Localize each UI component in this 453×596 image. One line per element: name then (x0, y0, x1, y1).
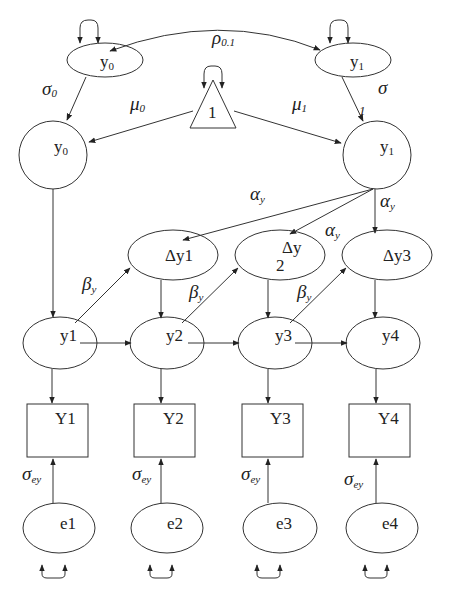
svg-text:e4: e4 (382, 514, 399, 533)
sigma-ey-label-1: σey (22, 463, 41, 485)
y4-node: y4 (346, 317, 420, 369)
sigma0-label: σ0 (42, 78, 57, 99)
svg-text:y4: y4 (382, 326, 400, 345)
e3-node: e3 (243, 503, 317, 553)
svg-text:e3: e3 (276, 514, 292, 533)
one-label: 1 (359, 103, 366, 118)
mu0-label: μ0 (129, 93, 146, 114)
e3-self-loop (257, 565, 280, 578)
top-y1-node: y1 (315, 43, 391, 77)
svg-text:Δy: Δy (282, 238, 302, 257)
latent-y0-circle: y0 (19, 121, 87, 189)
edge-top-y0-to-circle (67, 77, 86, 120)
svg-text:y0: y0 (54, 137, 69, 157)
mu1-label: μ1 (291, 93, 307, 114)
beta-label-2: βy (188, 281, 203, 303)
sigma-ey-label-4: σey (344, 468, 363, 490)
e2-node: e2 (131, 503, 203, 553)
svg-text:Y4: Y4 (378, 409, 399, 428)
svg-text:1: 1 (208, 103, 217, 122)
delta-y2-node: Δy 2 (235, 230, 325, 280)
alpha-label-3: αy (380, 190, 395, 212)
sigma-label: σ (378, 77, 388, 98)
svg-text:2: 2 (276, 256, 285, 275)
svg-text:Y2: Y2 (163, 409, 184, 428)
alpha-label-1: αy (250, 183, 265, 205)
svg-text:Y3: Y3 (270, 409, 291, 428)
edge-constant-to-y1 (234, 111, 341, 143)
svg-text:y1: y1 (380, 137, 394, 157)
sigma-ey-label-3: σey (241, 463, 260, 485)
constant-triangle: 1 (190, 80, 236, 128)
delta-y1-node: Δy1 (128, 230, 218, 280)
svg-text:y0: y0 (100, 52, 115, 72)
top-y1-self-loop (330, 20, 348, 43)
Y1-box: Y1 (27, 404, 88, 457)
svg-text:e2: e2 (167, 514, 183, 533)
beta-label-1: βy (81, 273, 96, 295)
constant-self-loop (204, 66, 222, 88)
e2-self-loop (150, 565, 172, 578)
svg-text:Y1: Y1 (55, 409, 76, 428)
edge-alpha-dy1 (183, 189, 373, 240)
svg-text:Δy1: Δy1 (165, 246, 193, 265)
svg-text:y1: y1 (350, 52, 364, 72)
latent-y1-circle: y1 (343, 121, 411, 189)
beta-label-3: βy (296, 281, 311, 303)
e4-self-loop (365, 565, 387, 578)
e1-self-loop (42, 565, 65, 578)
top-y0-node: y0 (67, 43, 143, 77)
e1-node: e1 (23, 503, 95, 553)
Y2-box: Y2 (134, 404, 195, 457)
svg-text:y1: y1 (60, 326, 77, 345)
Y3-box: Y3 (242, 404, 303, 457)
delta-y3-node: Δy3 (342, 230, 432, 280)
e4-node: e4 (346, 503, 418, 553)
edge-constant-to-y0 (89, 111, 193, 142)
sigma-ey-label-2: σey (132, 463, 151, 485)
Y4-box: Y4 (349, 404, 410, 457)
alpha-label-2: αy (325, 219, 340, 241)
sem-diagram: y0 y1 ρ0.1 1 y0 y1 σ0 σ 1 μ0 μ1 αy αy αy (0, 0, 453, 596)
svg-text:e1: e1 (60, 514, 76, 533)
svg-text:y3: y3 (275, 326, 292, 345)
svg-text:y2: y2 (166, 326, 183, 345)
top-y0-self-loop (80, 20, 98, 43)
svg-text:Δy3: Δy3 (383, 246, 411, 265)
